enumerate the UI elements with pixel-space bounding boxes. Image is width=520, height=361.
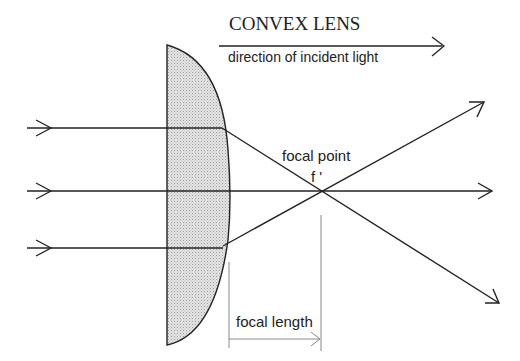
focal-point-symbol: f ' [311,168,322,185]
direction-label: direction of incident light [228,49,378,65]
focal-point-label: focal point [282,147,351,164]
refracted-rays [222,102,499,303]
refracted-ray-top [222,128,499,303]
convex-lens-diagram: CONVEX LENS direction of incident light … [0,0,520,361]
convex-lens [167,45,230,345]
refracted-ray-bottom [223,102,484,246]
diagram-title: CONVEX LENS [229,13,360,34]
focal-length-label: focal length [236,313,313,330]
